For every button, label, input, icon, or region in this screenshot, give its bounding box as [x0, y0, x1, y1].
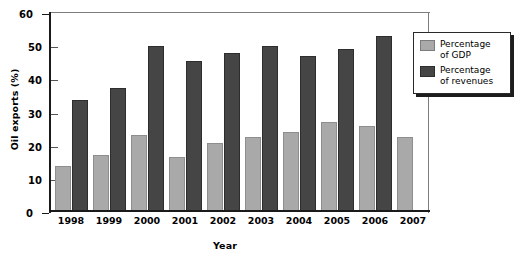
- x-axis-tick-label: 2005: [324, 215, 350, 226]
- bar-revenues-2003: [262, 46, 278, 210]
- bar-gdp-2007: [397, 137, 413, 210]
- y-axis-tick: 0: [42, 213, 49, 214]
- bar-gdp-2001: [169, 157, 185, 210]
- bar-gdp-2006: [359, 126, 375, 210]
- y-axis-tick-label: 20: [28, 141, 42, 152]
- y-axis-tick: 60: [42, 14, 49, 15]
- x-axis-line: [49, 210, 430, 212]
- legend-item: Percentageof GDP: [420, 39, 505, 61]
- bar-revenues-1998: [72, 100, 88, 210]
- bar-revenues-2000: [148, 46, 164, 211]
- y-axis-tick-label: 30: [28, 108, 42, 119]
- y-axis-tick-label: 10: [28, 174, 42, 185]
- bar-gdp-2004: [283, 132, 299, 210]
- bar-revenues-1999: [110, 88, 126, 210]
- bar-revenues-2001: [186, 61, 202, 210]
- x-axis-tick-label: 1999: [96, 215, 122, 226]
- x-axis-tick-label: 2002: [210, 215, 236, 226]
- bar-gdp-2000: [131, 135, 147, 210]
- bar-revenues-2002: [224, 53, 240, 210]
- x-axis-title: Year: [40, 240, 410, 251]
- bar-chart-figure: Oil exports (%) Year 0102030405060 19981…: [0, 0, 518, 262]
- bar-group: 1998: [55, 11, 87, 210]
- y-axis-tick-label: 60: [19, 9, 33, 20]
- bar-gdp-1999: [93, 155, 109, 210]
- legend-label: Percentageof GDP: [440, 39, 491, 61]
- x-axis-tick-label: 1998: [58, 215, 84, 226]
- bar-group: 2001: [169, 11, 201, 210]
- chart-legend: Percentageof GDPPercentageof revenues: [413, 32, 511, 94]
- bar-group: 1999: [93, 11, 125, 210]
- bar-gdp-2003: [245, 137, 261, 210]
- y-axis-tick-label: 0: [26, 208, 33, 219]
- legend-swatch-rev: [420, 66, 435, 77]
- bar-gdp-1998: [55, 166, 71, 210]
- y-axis-tick-label: 50: [28, 42, 42, 53]
- bar-revenues-2004: [300, 56, 316, 210]
- legend-swatch-gdp: [420, 40, 435, 51]
- x-axis-tick-label: 2001: [172, 215, 198, 226]
- bar-group: 2005: [321, 11, 353, 210]
- legend-item: Percentageof revenues: [420, 65, 505, 87]
- legend-label: Percentageof revenues: [440, 65, 493, 87]
- bar-group: 2002: [207, 11, 239, 210]
- bar-group: 2006: [359, 11, 391, 210]
- bar-gdp-2005: [321, 122, 337, 210]
- x-axis-tick-label: 2003: [248, 215, 274, 226]
- bar-group: 2004: [283, 11, 315, 210]
- bar-group: 2000: [131, 11, 163, 210]
- bar-group: 2003: [245, 11, 277, 210]
- x-axis-tick-label: 2004: [286, 215, 312, 226]
- bar-revenues-2006: [376, 36, 392, 210]
- y-axis-line: [49, 12, 51, 213]
- plot-area: 0102030405060 19981999200020012002200320…: [49, 12, 429, 212]
- y-axis-title: Oil exports (%): [9, 50, 20, 170]
- y-axis-tick-label: 40: [28, 75, 42, 86]
- x-axis-tick-label: 2000: [134, 215, 160, 226]
- x-axis-tick-label: 2007: [400, 215, 426, 226]
- bar-gdp-2002: [207, 143, 223, 210]
- bar-revenues-2005: [338, 49, 354, 210]
- x-axis-tick-label: 2006: [362, 215, 388, 226]
